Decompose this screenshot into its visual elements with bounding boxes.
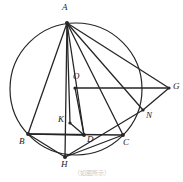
- point-label-n: N: [146, 111, 152, 120]
- point-marker-o: [73, 86, 76, 89]
- point-marker-a: [65, 21, 69, 25]
- point-marker-layer: [26, 21, 170, 159]
- point-label-a: A: [62, 3, 68, 12]
- point-label-k: K: [58, 115, 64, 124]
- point-marker-n: [141, 108, 144, 111]
- segment-hn: [65, 110, 143, 157]
- point-label-g: G: [173, 82, 180, 91]
- point-marker-g: [167, 86, 170, 89]
- segment-hb: [28, 134, 65, 157]
- geometry-canvas: [0, 0, 183, 182]
- point-marker-k: [68, 121, 71, 124]
- geometry-figure: AOGNKDBCH （如图所示）: [0, 0, 183, 182]
- point-marker-b: [26, 132, 30, 136]
- segment-ag: [67, 23, 169, 88]
- point-label-o: O: [73, 72, 80, 81]
- segment-ng: [143, 88, 169, 110]
- segment-layer: [28, 23, 169, 157]
- segment-ah: [65, 23, 67, 157]
- segment-hc: [65, 135, 123, 157]
- point-label-d: D: [87, 135, 94, 144]
- point-label-b: B: [19, 137, 25, 146]
- point-marker-d: [82, 133, 86, 137]
- point-label-c: C: [123, 138, 129, 147]
- point-label-h: H: [61, 160, 68, 169]
- figure-caption: （如图所示）: [0, 170, 183, 177]
